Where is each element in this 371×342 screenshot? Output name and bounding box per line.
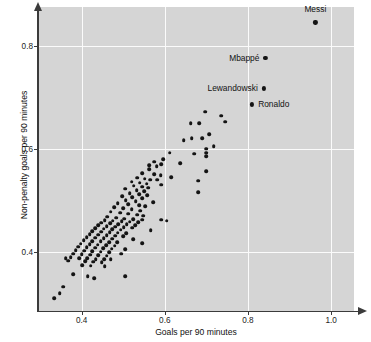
data-point bbox=[140, 196, 144, 200]
data-point bbox=[141, 214, 145, 218]
data-point bbox=[151, 200, 155, 204]
x-tick-mark bbox=[331, 311, 332, 315]
data-point bbox=[109, 258, 113, 262]
data-point bbox=[109, 210, 113, 214]
data-point bbox=[62, 285, 66, 289]
data-point bbox=[120, 220, 124, 224]
data-point bbox=[83, 259, 87, 263]
data-point bbox=[141, 241, 145, 245]
data-point bbox=[64, 256, 68, 260]
data-point bbox=[149, 228, 153, 232]
x-tick-mark bbox=[165, 311, 166, 315]
data-point bbox=[112, 206, 116, 210]
data-point bbox=[128, 191, 132, 195]
data-point bbox=[148, 178, 152, 182]
data-point bbox=[121, 234, 125, 238]
data-point bbox=[145, 182, 149, 186]
data-point bbox=[143, 205, 147, 209]
data-point-highlighted bbox=[262, 86, 266, 90]
data-point bbox=[137, 204, 141, 208]
data-point bbox=[132, 184, 136, 188]
gridline-horizontal bbox=[38, 46, 354, 47]
data-point bbox=[77, 256, 81, 260]
data-point bbox=[130, 226, 134, 230]
point-annotation-label: Ronaldo bbox=[258, 99, 289, 109]
data-point-highlighted bbox=[263, 56, 267, 60]
x-tick-label: 0.6 bbox=[159, 316, 170, 325]
data-point bbox=[133, 223, 137, 227]
data-point bbox=[178, 161, 182, 165]
data-point-highlighted bbox=[250, 102, 254, 106]
data-point bbox=[131, 238, 135, 242]
data-point bbox=[71, 273, 75, 277]
data-point bbox=[156, 178, 160, 182]
data-point bbox=[92, 276, 96, 280]
data-point bbox=[200, 137, 204, 141]
data-point bbox=[182, 138, 186, 142]
data-point bbox=[147, 168, 151, 172]
data-point bbox=[153, 173, 157, 177]
data-point bbox=[143, 177, 147, 181]
data-point bbox=[86, 275, 90, 279]
data-point bbox=[138, 181, 142, 185]
data-point bbox=[118, 211, 122, 215]
data-point bbox=[140, 185, 144, 189]
data-point bbox=[124, 274, 128, 278]
data-point bbox=[203, 110, 207, 114]
data-point bbox=[114, 216, 118, 220]
data-point bbox=[148, 163, 152, 167]
y-axis-label: Non-penalty goals per 90 minutes bbox=[19, 45, 29, 265]
data-point bbox=[126, 212, 130, 216]
x-tick-label: 0.4 bbox=[76, 316, 87, 325]
data-point bbox=[146, 193, 150, 197]
x-tick-mark bbox=[82, 311, 83, 315]
data-point bbox=[208, 132, 212, 136]
y-tick-mark bbox=[34, 149, 38, 150]
data-point bbox=[58, 291, 62, 295]
x-tick-label: 0.8 bbox=[242, 316, 253, 325]
data-point bbox=[52, 296, 56, 300]
data-point bbox=[89, 264, 93, 268]
data-point bbox=[135, 213, 139, 217]
y-tick-mark bbox=[34, 252, 38, 253]
x-axis-label: Goals per 90 minutes bbox=[38, 327, 354, 337]
data-point bbox=[153, 160, 157, 164]
data-point bbox=[124, 187, 128, 191]
data-point bbox=[161, 157, 165, 161]
data-point bbox=[81, 263, 85, 267]
data-point bbox=[198, 121, 202, 125]
data-point bbox=[137, 192, 141, 196]
data-point bbox=[155, 164, 159, 168]
x-axis-arrow-icon bbox=[358, 307, 367, 315]
y-axis-arrow-icon bbox=[34, 2, 42, 11]
plot-area: MessiMbappéLewandowskiRonaldo bbox=[38, 7, 354, 311]
data-point bbox=[138, 209, 142, 213]
data-point bbox=[142, 189, 146, 193]
gridline-horizontal bbox=[38, 149, 354, 150]
data-point bbox=[130, 180, 134, 184]
data-point bbox=[160, 162, 164, 166]
data-point bbox=[169, 175, 173, 179]
data-point bbox=[135, 188, 139, 192]
data-point bbox=[131, 217, 135, 221]
data-point bbox=[130, 208, 134, 212]
x-axis-line bbox=[37, 311, 359, 313]
gridline-vertical bbox=[331, 7, 332, 311]
x-tick-mark bbox=[248, 311, 249, 315]
data-point bbox=[168, 151, 172, 155]
point-annotation-label: Lewandowski bbox=[38, 83, 258, 93]
data-point bbox=[106, 215, 110, 219]
data-point bbox=[189, 121, 193, 125]
data-point bbox=[120, 194, 124, 198]
y-axis-line bbox=[37, 10, 39, 312]
data-point bbox=[192, 152, 196, 156]
data-point bbox=[140, 218, 144, 222]
data-point bbox=[134, 199, 138, 203]
data-point bbox=[146, 186, 150, 190]
data-point bbox=[92, 260, 96, 264]
data-point bbox=[103, 264, 107, 268]
data-point bbox=[131, 195, 135, 199]
data-point bbox=[219, 114, 223, 118]
point-annotation-label: Messi bbox=[304, 4, 326, 14]
data-point-highlighted bbox=[313, 20, 317, 24]
